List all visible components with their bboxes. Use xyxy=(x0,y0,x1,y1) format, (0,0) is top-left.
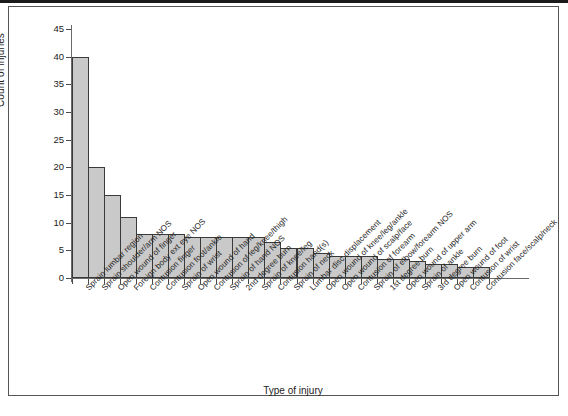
y-axis-tick xyxy=(66,112,71,113)
x-axis-title: Type of injury xyxy=(9,385,568,396)
y-axis-tick-label: 20 xyxy=(42,162,64,172)
y-axis-tick-label: 35 xyxy=(42,79,64,89)
bar xyxy=(88,167,105,278)
x-axis-tick xyxy=(72,279,73,284)
y-axis-tick xyxy=(66,29,71,30)
y-axis-tick-label: 15 xyxy=(42,190,64,200)
chart-frame: Count of injuries 051015202530354045 Typ… xyxy=(8,6,559,396)
y-axis-tick-labels: 051015202530354045 xyxy=(34,7,64,395)
y-axis-tick-label: 0 xyxy=(42,273,64,283)
y-axis-tick-label: 45 xyxy=(42,24,64,34)
y-axis-tick xyxy=(66,195,71,196)
y-axis-tick xyxy=(66,140,71,141)
y-axis-tick-label: 25 xyxy=(42,135,64,145)
y-axis-tick xyxy=(66,84,71,85)
y-axis-tick-label: 40 xyxy=(42,52,64,62)
y-axis-tick xyxy=(66,278,71,279)
y-axis-tick xyxy=(66,167,71,168)
bar xyxy=(72,57,89,278)
y-axis-tick-label: 30 xyxy=(42,107,64,117)
y-axis-tick xyxy=(66,57,71,58)
y-axis-tick xyxy=(66,250,71,251)
page-top-rule xyxy=(0,0,568,3)
y-axis-title: Count of injuries xyxy=(0,33,6,107)
y-axis-tick-label: 10 xyxy=(42,218,64,228)
y-axis-tick xyxy=(66,223,71,224)
y-axis-tick-label: 5 xyxy=(42,245,64,255)
